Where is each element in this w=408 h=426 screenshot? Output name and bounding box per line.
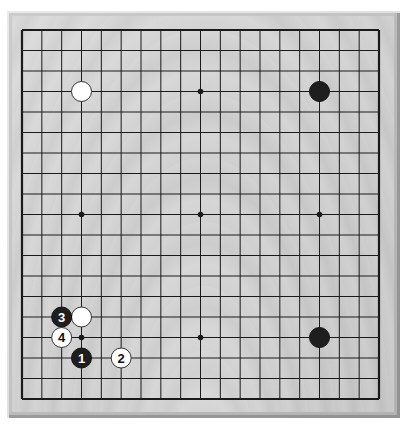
black-stone (310, 82, 330, 102)
black-stone (310, 328, 330, 348)
white-stone (72, 82, 92, 102)
star-point (198, 89, 204, 95)
go-board-grid[interactable]: 3412 (0, 0, 408, 426)
star-point (79, 335, 85, 341)
move-number: 1 (78, 351, 85, 366)
black-stone-3: 3 (52, 307, 72, 327)
move-number: 4 (58, 330, 66, 345)
white-stone-2: 2 (111, 348, 131, 368)
move-number: 2 (118, 351, 125, 366)
white-stone (72, 307, 92, 327)
stones: 3412 (52, 82, 330, 369)
star-point (198, 335, 204, 341)
star-point (79, 212, 85, 218)
star-point (317, 212, 323, 218)
move-number: 3 (58, 310, 65, 325)
white-stone-4: 4 (52, 328, 72, 348)
star-point (198, 212, 204, 218)
black-stone-1: 1 (72, 348, 92, 368)
